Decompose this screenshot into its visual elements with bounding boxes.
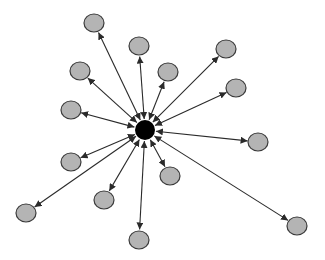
edge-hub-n6 — [81, 113, 134, 127]
edge-hub-n13 — [140, 141, 145, 230]
peripheral-node-n13 — [129, 231, 149, 249]
edge-hub-n5 — [88, 78, 137, 123]
peripheral-node-n1 — [84, 14, 104, 32]
hub-layer — [135, 120, 155, 140]
peripheral-node-n14 — [287, 217, 307, 235]
edge-hub-n2 — [140, 57, 145, 120]
network-graph — [0, 0, 325, 260]
peripheral-node-n7 — [226, 79, 246, 97]
peripheral-node-n4 — [216, 40, 236, 58]
edge-hub-n9 — [81, 134, 135, 157]
edges-layer — [35, 33, 289, 230]
peripheral-node-n8 — [248, 133, 268, 151]
peripheral-node-n6 — [61, 101, 81, 119]
peripheral-node-n12 — [16, 204, 36, 222]
peripheral-node-n10 — [160, 167, 180, 185]
peripheral-node-n5 — [70, 62, 90, 80]
edge-hub-n3 — [149, 82, 164, 120]
peripheral-node-n3 — [158, 63, 178, 81]
peripheral-node-n9 — [61, 153, 81, 171]
peripheral-node-n11 — [94, 191, 114, 209]
hub-node — [135, 120, 155, 140]
edge-hub-n11 — [109, 140, 139, 191]
edge-hub-n10 — [150, 140, 165, 167]
star-network-diagram — [0, 0, 325, 260]
peripheral-node-n2 — [129, 37, 149, 55]
edge-hub-n8 — [156, 131, 248, 141]
